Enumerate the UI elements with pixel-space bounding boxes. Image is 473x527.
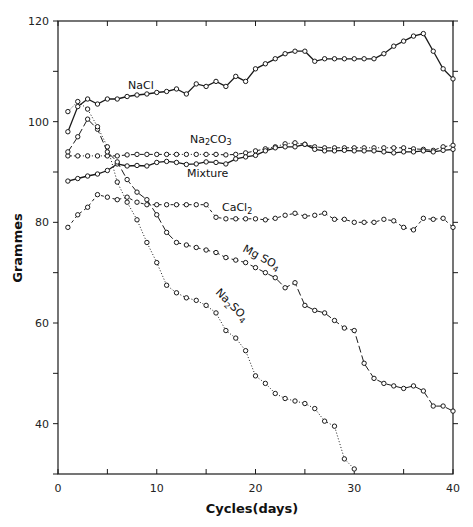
data-point-marker bbox=[135, 163, 139, 167]
data-point-marker bbox=[392, 219, 396, 223]
data-point-marker bbox=[145, 203, 149, 207]
data-point-marker bbox=[145, 164, 149, 168]
data-point-marker bbox=[155, 160, 159, 164]
data-point-marker bbox=[194, 162, 198, 166]
data-point-marker bbox=[253, 153, 257, 157]
data-point-marker bbox=[342, 326, 346, 330]
data-point-marker bbox=[234, 152, 238, 156]
data-point-marker bbox=[115, 97, 119, 101]
data-point-marker bbox=[382, 381, 386, 385]
data-point-marker bbox=[392, 151, 396, 155]
data-point-marker bbox=[243, 79, 247, 83]
data-point-marker bbox=[283, 145, 287, 149]
data-point-marker bbox=[293, 281, 297, 285]
data-point-marker bbox=[451, 409, 455, 413]
data-point-marker bbox=[184, 203, 188, 207]
data-point-marker bbox=[184, 243, 188, 247]
data-point-marker bbox=[85, 117, 89, 121]
data-point-marker bbox=[204, 160, 208, 164]
x-tick-label: 20 bbox=[249, 482, 263, 495]
data-point-marker bbox=[234, 336, 238, 340]
data-point-marker bbox=[313, 59, 317, 63]
data-point-marker bbox=[204, 203, 208, 207]
data-point-marker bbox=[401, 150, 405, 154]
series-mgso4 bbox=[66, 117, 456, 413]
data-point-marker bbox=[441, 216, 445, 220]
data-point-marker bbox=[451, 147, 455, 151]
data-point-marker bbox=[105, 145, 109, 149]
data-point-marker bbox=[411, 34, 415, 38]
data-point-marker bbox=[421, 149, 425, 153]
data-point-marker bbox=[253, 265, 257, 269]
data-point-marker bbox=[224, 255, 228, 259]
data-point-marker bbox=[184, 92, 188, 96]
data-point-marker bbox=[125, 195, 129, 199]
data-point-marker bbox=[76, 135, 80, 139]
y-tick-label: 60 bbox=[35, 317, 49, 330]
data-point-marker bbox=[184, 162, 188, 166]
label-cacl2: CaCl2 bbox=[222, 201, 252, 216]
data-point-marker bbox=[145, 92, 149, 96]
data-point-marker bbox=[145, 240, 149, 244]
data-point-marker bbox=[362, 57, 366, 61]
series-na2co3 bbox=[66, 141, 456, 158]
data-point-marker bbox=[243, 348, 247, 352]
series-cacl2 bbox=[66, 192, 456, 232]
label-mgso4: Mg SO4 bbox=[240, 242, 283, 274]
data-point-marker bbox=[76, 104, 80, 108]
data-point-marker bbox=[66, 109, 70, 113]
data-point-marker bbox=[164, 89, 168, 93]
data-point-marker bbox=[234, 157, 238, 161]
data-point-marker bbox=[273, 57, 277, 61]
data-point-marker bbox=[263, 62, 267, 66]
data-point-marker bbox=[204, 84, 208, 88]
data-point-marker bbox=[194, 82, 198, 86]
x-axis-title: Cycles(days) bbox=[206, 501, 299, 516]
data-point-marker bbox=[332, 424, 336, 428]
data-point-marker bbox=[95, 172, 99, 176]
y-tick-label: 40 bbox=[35, 418, 49, 431]
data-point-marker bbox=[243, 260, 247, 264]
data-point-marker bbox=[194, 298, 198, 302]
data-point-marker bbox=[342, 57, 346, 61]
data-point-marker bbox=[392, 44, 396, 48]
data-point-marker bbox=[85, 205, 89, 209]
data-point-marker bbox=[115, 197, 119, 201]
x-tick-label: 30 bbox=[347, 482, 361, 495]
data-point-marker bbox=[411, 228, 415, 232]
data-point-marker bbox=[352, 220, 356, 224]
series-nacl bbox=[66, 31, 456, 134]
series-line bbox=[68, 195, 453, 230]
data-point-marker bbox=[85, 174, 89, 178]
label-na2co3: Na2CO3 bbox=[190, 133, 232, 147]
data-point-marker bbox=[155, 260, 159, 264]
data-point-marker bbox=[421, 216, 425, 220]
data-point-marker bbox=[135, 200, 139, 204]
data-point-marker bbox=[332, 149, 336, 153]
data-point-marker bbox=[441, 404, 445, 408]
data-point-marker bbox=[115, 154, 119, 158]
data-point-marker bbox=[164, 159, 168, 163]
data-point-marker bbox=[194, 152, 198, 156]
data-point-marker bbox=[273, 276, 277, 280]
data-point-marker bbox=[164, 230, 168, 234]
data-point-marker bbox=[313, 213, 317, 217]
data-point-marker bbox=[293, 145, 297, 149]
data-point-marker bbox=[234, 217, 238, 221]
data-point-marker bbox=[164, 152, 168, 156]
data-point-marker bbox=[401, 386, 405, 390]
data-point-marker bbox=[125, 153, 129, 157]
data-point-marker bbox=[441, 148, 445, 152]
data-point-marker bbox=[332, 57, 336, 61]
data-point-marker bbox=[263, 218, 267, 222]
series-line bbox=[68, 119, 453, 411]
data-point-marker bbox=[253, 67, 257, 71]
data-point-marker bbox=[95, 192, 99, 196]
series-line bbox=[68, 102, 354, 470]
data-point-marker bbox=[313, 406, 317, 410]
data-point-marker bbox=[135, 93, 139, 97]
data-point-marker bbox=[224, 84, 228, 88]
data-point-marker bbox=[243, 155, 247, 159]
data-point-marker bbox=[431, 217, 435, 221]
data-point-marker bbox=[135, 152, 139, 156]
